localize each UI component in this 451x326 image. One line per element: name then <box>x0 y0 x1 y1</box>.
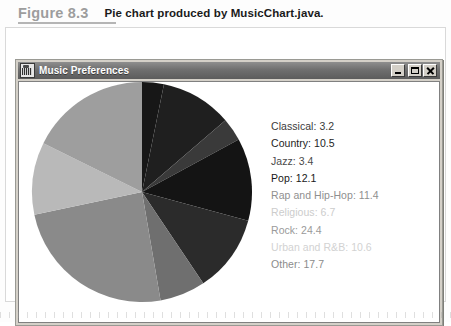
legend-item-urban-and-r-b: Urban and R&B: 10.6 <box>271 239 440 256</box>
window-client-area: Classical: 3.2Country: 10.5Jazz: 3.4Pop:… <box>18 81 440 323</box>
legend-item-rap-and-hip-hop: Rap and Hip-Hop: 11.4 <box>271 187 440 204</box>
figure-number: Figure 8.3 <box>18 5 89 21</box>
legend-item-jazz: Jazz: 3.4 <box>271 153 440 170</box>
legend-item-rock: Rock: 24.4 <box>271 222 440 239</box>
scan-artifact <box>0 312 451 318</box>
window-titlebar[interactable]: Music Preferences <box>18 62 440 79</box>
music-app-icon <box>20 63 35 78</box>
legend-item-other: Other: 17.7 <box>271 256 440 273</box>
pie-chart-svg <box>31 82 253 323</box>
minimize-button[interactable] <box>391 64 405 77</box>
pie-chart <box>31 82 253 323</box>
pie-slice-group <box>32 82 252 302</box>
window-controls <box>391 64 437 77</box>
legend-item-pop: Pop: 12.1 <box>271 170 440 187</box>
maximize-button[interactable] <box>408 64 422 77</box>
caption-underline <box>18 22 116 24</box>
music-preferences-window: Music Preferences Classical: 3.2Country:… <box>15 59 443 326</box>
legend-item-religious: Religious: 6.7 <box>271 204 440 221</box>
legend-item-country: Country: 10.5 <box>271 135 440 152</box>
figure-caption: Figure 8.3 Pie chart produced by MusicCh… <box>0 2 451 24</box>
window-title: Music Preferences <box>39 64 129 77</box>
legend-item-classical: Classical: 3.2 <box>271 118 440 135</box>
close-button[interactable] <box>423 64 437 77</box>
chart-legend: Classical: 3.2Country: 10.5Jazz: 3.4Pop:… <box>271 118 440 274</box>
figure-title: Pie chart produced by MusicChart.java. <box>105 7 324 19</box>
screenshot-frame: Music Preferences Classical: 3.2Country:… <box>5 27 446 302</box>
